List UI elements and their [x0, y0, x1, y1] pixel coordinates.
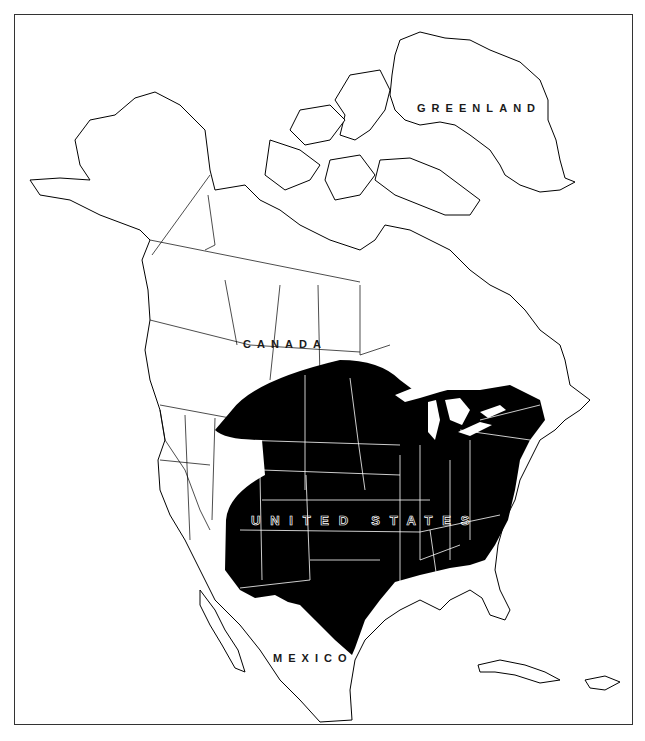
north-america-map: [0, 0, 645, 741]
mexico-label: MEXICO: [273, 652, 353, 664]
arctic-island: [325, 155, 375, 200]
cuba: [478, 660, 560, 683]
baffin-island: [375, 158, 480, 215]
arctic-island: [265, 140, 320, 190]
hispaniola: [585, 676, 620, 690]
arctic-island: [290, 105, 345, 145]
united-states-label: UNITED STATES: [251, 513, 479, 528]
greenland-label: GREENLAND: [417, 102, 541, 114]
canada-label: CANADA: [243, 338, 327, 350]
arctic-island: [335, 70, 390, 140]
